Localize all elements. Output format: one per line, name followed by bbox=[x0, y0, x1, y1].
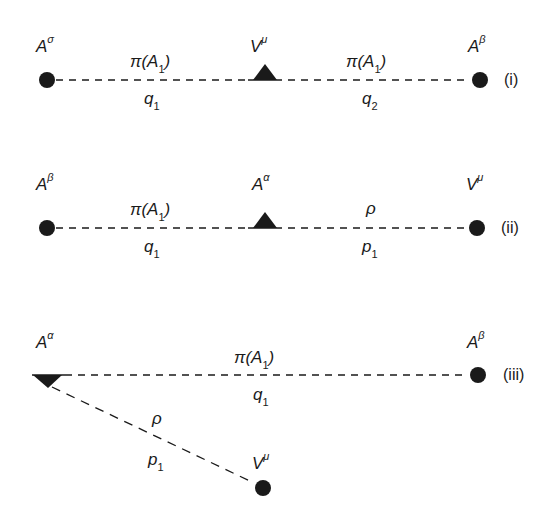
vertex-label: Vμ bbox=[466, 174, 483, 193]
vertex-triangle-icon bbox=[253, 212, 277, 228]
vertex-label: Vμ bbox=[250, 36, 267, 55]
vertex-label: Aα bbox=[252, 174, 270, 193]
vertex-circle-icon bbox=[470, 367, 486, 383]
diagram-tag: (iii) bbox=[503, 367, 524, 383]
particle-label: π(A1) bbox=[346, 53, 386, 73]
feynman-diagrams bbox=[0, 0, 553, 510]
vertex-label: Aσ bbox=[36, 36, 54, 55]
diagram-ii bbox=[39, 212, 485, 236]
vertex-label: Aβ bbox=[468, 36, 486, 55]
momentum-label: q1 bbox=[253, 386, 269, 406]
vertex-half-triangle-icon bbox=[33, 375, 62, 388]
particle-label: π(A1) bbox=[130, 201, 170, 221]
vertex-circle-icon bbox=[472, 72, 488, 88]
vertex-circle-icon bbox=[469, 220, 485, 236]
momentum-label: q1 bbox=[144, 238, 160, 258]
momentum-label: p1 bbox=[362, 238, 378, 258]
vertex-label: Aα bbox=[36, 332, 54, 351]
particle-label: π(A1) bbox=[234, 349, 274, 369]
vertex-circle-icon bbox=[255, 480, 271, 496]
vertex-label: Vμ bbox=[252, 453, 269, 472]
momentum-label: q1 bbox=[144, 90, 160, 110]
vertex-label: Aβ bbox=[36, 174, 54, 193]
momentum-label: p1 bbox=[148, 451, 164, 471]
diagram-tag: (ii) bbox=[501, 220, 519, 236]
particle-label: ρ bbox=[152, 410, 162, 427]
momentum-label: q2 bbox=[362, 90, 378, 110]
diagram-i bbox=[39, 64, 488, 88]
vertex-circle-icon bbox=[39, 220, 55, 236]
vertex-circle-icon bbox=[39, 72, 55, 88]
vertex-label: Aβ bbox=[467, 332, 485, 351]
diagram-tag: (i) bbox=[504, 72, 518, 88]
vertex-triangle-icon bbox=[253, 64, 277, 80]
particle-label: π(A1) bbox=[130, 53, 170, 73]
particle-label: ρ bbox=[366, 200, 376, 217]
